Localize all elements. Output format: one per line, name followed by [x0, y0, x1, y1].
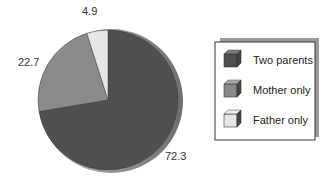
label-mother-only: 22.7: [18, 56, 39, 68]
pie-chart: 4.9 22.7 72.3 Two parentsMother onlyFath…: [0, 0, 335, 180]
legend-label: Two parents: [253, 54, 313, 66]
cube-swatch-icon: [224, 50, 241, 67]
cube-swatch-icon: [224, 80, 241, 97]
legend-label: Father only: [253, 114, 309, 126]
label-two-parents: 72.3: [165, 150, 186, 162]
pie-slices: [38, 30, 178, 170]
label-father-only: 4.9: [82, 5, 97, 17]
cube-swatch-icon: [224, 110, 241, 127]
legend-label: Mother only: [253, 84, 311, 96]
legend: Two parentsMother onlyFather only: [215, 38, 319, 140]
